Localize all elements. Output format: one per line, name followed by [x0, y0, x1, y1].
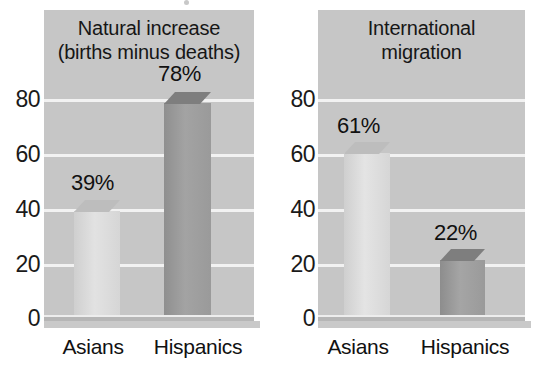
- value-label-hispanics: 78%: [158, 63, 201, 85]
- chart-floor-front-right: [318, 321, 531, 328]
- y-tick-20: 20: [0, 253, 40, 276]
- bar-asians-international-migration: [344, 153, 390, 315]
- plot-area-left: Natural increase (births minus deaths): [44, 10, 254, 315]
- category-label-hispanics: Hispanics: [405, 336, 525, 357]
- chart-title-right-line2: migration: [318, 40, 525, 64]
- plot-area-right: International migration: [318, 10, 525, 315]
- bar-hispanics-natural-increase: [164, 103, 211, 315]
- y-tick-60: 60: [0, 143, 40, 166]
- y-axis-left: 80 60 40 20 0: [0, 0, 40, 370]
- category-label-asians: Asians: [48, 336, 138, 357]
- chart-panel-natural-increase: Natural increase (births minus deaths) 7…: [0, 0, 271, 370]
- value-label-hispanics: 22%: [434, 222, 477, 244]
- value-label-asians: 61%: [337, 115, 380, 137]
- y-tick-0: 0: [0, 307, 40, 330]
- chart-title-right-line1: International: [318, 16, 525, 40]
- category-label-asians: Asians: [313, 336, 403, 357]
- chart-floor-bevel-left: [44, 315, 254, 317]
- chart-title-left-line1: Natural increase: [44, 16, 254, 40]
- chart-floor-bevel-right: [318, 315, 525, 317]
- gridline-80: [44, 99, 254, 102]
- category-label-hispanics: Hispanics: [138, 336, 258, 357]
- gridline-60: [44, 154, 254, 157]
- bar-front-face: [74, 211, 120, 315]
- y-axis-right: 80 60 40 20 0: [271, 0, 315, 370]
- bar-hispanics-international-migration: [440, 260, 485, 315]
- y-tick-40: 40: [271, 198, 315, 221]
- chart-figure: Natural increase (births minus deaths) 7…: [0, 0, 542, 370]
- bar-asians-natural-increase: [74, 211, 120, 315]
- chart-title-left: Natural increase (births minus deaths): [44, 16, 254, 65]
- value-label-asians: 39%: [71, 172, 114, 194]
- gridline-80: [318, 99, 525, 102]
- y-tick-40: 40: [0, 198, 40, 221]
- chart-title-right: International migration: [318, 16, 525, 65]
- bar-front-face: [164, 103, 211, 315]
- y-tick-60: 60: [271, 143, 315, 166]
- y-tick-20: 20: [271, 253, 315, 276]
- chart-floor-front-left: [44, 321, 260, 328]
- chart-title-left-line2: (births minus deaths): [44, 40, 254, 64]
- bar-front-face: [440, 260, 485, 315]
- y-tick-80: 80: [271, 88, 315, 111]
- y-tick-80: 80: [0, 88, 40, 111]
- bar-front-face: [344, 153, 390, 315]
- y-tick-0: 0: [271, 307, 315, 330]
